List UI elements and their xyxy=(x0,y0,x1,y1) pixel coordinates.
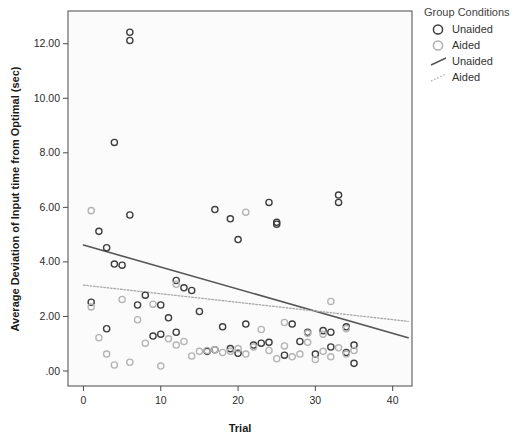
x-axis-title: Trial xyxy=(229,422,252,434)
x-tick-label: 0 xyxy=(81,394,87,406)
x-tick-label: 10 xyxy=(155,394,167,406)
x-tick-label: 20 xyxy=(232,394,244,406)
chart-canvas: .002.004.006.008.0010.0012.00 010203040 … xyxy=(0,0,517,438)
legend-label: Unaided xyxy=(452,55,493,67)
y-tick-label: 4.00 xyxy=(40,255,61,267)
y-tick-label: 10.00 xyxy=(34,92,60,104)
y-tick-label: 2.00 xyxy=(40,310,61,322)
x-tick-label: 30 xyxy=(310,394,322,406)
scatter-plot-figure: .002.004.006.008.0010.0012.00 010203040 … xyxy=(0,0,517,438)
legend-label: Unaided xyxy=(452,23,493,35)
legend-label: Aided xyxy=(452,39,480,51)
legend-title: Group Conditions xyxy=(424,6,510,18)
plot-frame xyxy=(68,11,412,386)
y-tick-label: .00 xyxy=(45,365,60,377)
y-axis-title: Average Deviation of Input time from Opt… xyxy=(9,66,21,331)
y-tick-label: 6.00 xyxy=(40,201,61,213)
x-tick-label: 40 xyxy=(387,394,399,406)
y-tick-label: 12.00 xyxy=(34,37,60,49)
plot-area xyxy=(68,11,412,386)
y-tick-label: 8.00 xyxy=(40,146,61,158)
legend-label: Aided xyxy=(452,71,480,83)
